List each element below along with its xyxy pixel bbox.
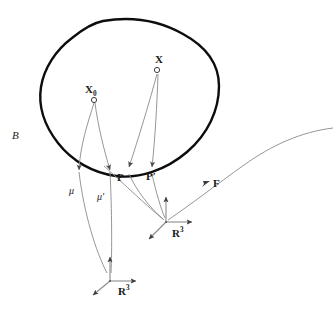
point-x0-label: X0 (85, 84, 97, 98)
space-r3-right-base: R (172, 227, 180, 239)
placement-mu-prime-label: μ′ (97, 192, 104, 202)
space-r3-lower-base: R (118, 285, 126, 297)
figure-canvas: B X0 X μ μ′ P P′ F R3 R3 (0, 0, 334, 318)
body-outline (40, 19, 219, 176)
image-p-prime-label: P′ (146, 171, 156, 182)
space-r3-lower-label: R3 (118, 285, 130, 297)
placement-mu-prime-mark: ′ (102, 191, 104, 202)
point-x0-label-subscript: 0 (93, 90, 97, 98)
placement-curve-mu (79, 103, 94, 170)
lower-frame-diagonal-axis (93, 281, 110, 295)
space-r3-lower-exponent: 3 (126, 284, 130, 292)
space-r3-right-label: R3 (172, 227, 184, 239)
point-x-label-text: X (155, 53, 163, 65)
placement-mu-label: μ (69, 186, 74, 196)
image-p-prime-mark: ′ (153, 170, 156, 182)
right-frame-origin (165, 221, 167, 223)
point-x-label: X (155, 54, 163, 65)
image-p-prime-base: P (146, 170, 153, 182)
body-label: B (12, 130, 19, 141)
space-r3-right-exponent: 3 (180, 226, 184, 234)
placement-curve-mu-prime (95, 103, 110, 170)
right-frame-diagonal-axis (149, 222, 166, 239)
map-f-arrowhead (202, 181, 210, 187)
image-p-label-text: P (117, 171, 124, 183)
material-point-x-marker (154, 67, 159, 72)
image-p-label: P (117, 172, 124, 183)
map-curve-f (168, 128, 333, 220)
diagram-svg (0, 0, 334, 318)
map-f-label: F (213, 178, 220, 189)
placement-curve-mu-tail (79, 172, 107, 273)
point-x0-label-base: X (85, 83, 93, 95)
lower-frame-origin (109, 280, 111, 282)
body-label-text: B (12, 129, 19, 141)
placement-curve-p (129, 74, 157, 167)
map-f-label-text: F (213, 177, 220, 189)
placement-mu-label-text: μ (69, 185, 74, 196)
